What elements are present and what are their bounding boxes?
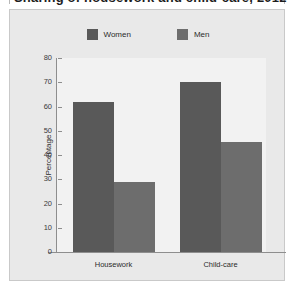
x-axis-label-housework: Housework: [73, 260, 155, 269]
y-tick-label: 30: [44, 174, 52, 183]
page-title: Sharing of housework and child-care, 201…: [14, 0, 287, 5]
y-tick-label: 60: [44, 102, 52, 111]
bar-women-child-care[interactable]: [180, 82, 221, 252]
chart-legend: WomenMen: [10, 27, 286, 41]
x-axis-line: [48, 252, 286, 253]
title-left-rule: [9, 0, 10, 4]
y-tick-label: 70: [44, 77, 52, 86]
legend-label: Men: [194, 29, 210, 40]
x-axis-label-child-care: Child-care: [180, 260, 262, 269]
legend-label: Women: [104, 29, 131, 40]
bar-group-child-care: [180, 58, 262, 252]
y-tick: 0: [16, 252, 62, 253]
legend-swatch-icon: [87, 29, 98, 40]
y-tick-label: 50: [44, 126, 52, 135]
y-tick-label: 20: [44, 199, 52, 208]
chart-figure-panel: WomenMen Percentage 01020304050607080 Ho…: [9, 9, 285, 281]
bar-women-housework[interactable]: [73, 102, 114, 252]
bar-men-housework[interactable]: [114, 182, 155, 252]
y-tick-label: 80: [44, 53, 52, 62]
legend-swatch-icon: [177, 29, 188, 40]
y-tick-label: 0: [48, 247, 52, 256]
legend-entry-women[interactable]: Women: [87, 29, 131, 40]
bars-layer: [56, 58, 266, 252]
bar-group-housework: [73, 58, 155, 252]
plot-region: Percentage 01020304050607080 HouseworkCh…: [56, 58, 266, 252]
y-tick-label: 10: [44, 223, 52, 232]
y-tick-label: 40: [44, 150, 52, 159]
y-tick-mark: [58, 252, 62, 253]
figure-title-strip: Sharing of housework and child-care, 201…: [0, 0, 295, 5]
bar-men-child-care[interactable]: [221, 142, 262, 252]
legend-entry-men[interactable]: Men: [177, 29, 210, 40]
